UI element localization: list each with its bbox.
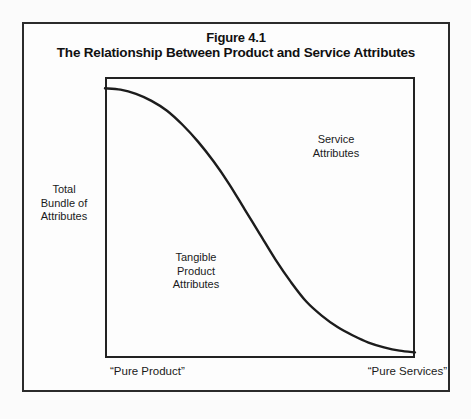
tangible-product-attributes-label: Tangible Product Attributes [150,251,242,292]
attribute-mix-curve [105,77,415,358]
x-axis-right-endpoint-label: “Pure Services” [368,365,447,377]
curve-stroke [105,88,415,352]
figure-number: Figure 4.1 [22,30,450,45]
y-axis-label: Total Bundle of Attributes [26,183,102,224]
x-axis-left-endpoint-label: “Pure Product” [110,365,185,377]
figure-title: The Relationship Between Product and Ser… [22,45,450,60]
figure-container: Figure 4.1 The Relationship Between Prod… [0,0,471,419]
figure-caption: Figure 4.1 The Relationship Between Prod… [22,30,450,60]
service-attributes-label: Service Attributes [290,133,382,160]
